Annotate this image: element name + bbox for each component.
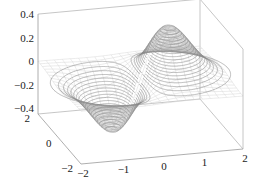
x-tick-label: −2 [77,167,89,179]
y-tick-label: −2 [61,162,73,174]
y-tick-label: 0 [46,137,52,149]
box-edge-top-back [38,0,200,14]
box-edge-floor-right [200,99,243,149]
plot-box-front [38,0,243,164]
mesh-line-y [57,25,219,127]
surface-mesh [38,25,243,132]
y-axis-line [38,114,81,164]
z-tick-label: 0.2 [20,32,34,44]
surface-contour-plot: 0.40.20−0.2−0.4 −202 −2−1012 [0,0,265,186]
z-tick-label: 0 [29,55,35,67]
x-axis-ticks: −2−1012 [77,152,248,179]
z-tick-label: 0.4 [20,8,34,20]
box-edge-top-right [200,0,243,49]
y-tick-label: 2 [25,112,31,124]
mesh-line-y [60,26,222,132]
z-axis-ticks: 0.40.20−0.2−0.4 [14,8,34,114]
x-tick-label: 1 [202,156,208,168]
x-tick-label: 2 [242,152,248,164]
mesh-line-y [45,51,207,71]
x-tick-label: 0 [161,160,167,172]
y-axis-ticks: −202 [25,112,74,174]
x-tick-label: −1 [118,163,130,175]
z-tick-label: −0.2 [14,79,34,91]
